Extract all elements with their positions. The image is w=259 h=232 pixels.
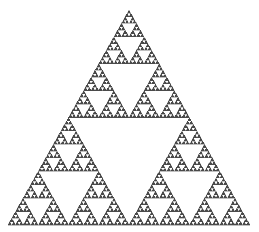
sierpinski-triangle-graphic [0, 0, 259, 232]
fractal-figure [0, 0, 259, 232]
